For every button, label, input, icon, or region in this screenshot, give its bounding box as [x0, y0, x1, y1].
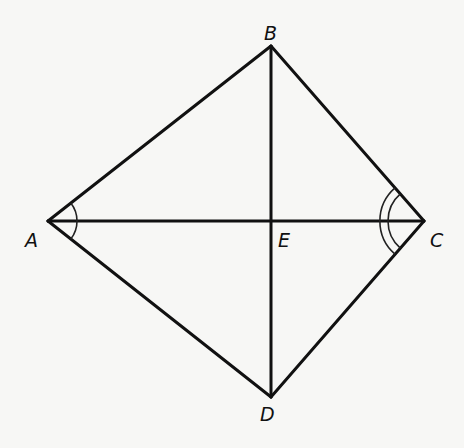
kite-diagram: B A E C D: [0, 0, 464, 448]
segment-ab: [48, 46, 271, 221]
label-e: E: [278, 229, 290, 251]
segment-cd: [271, 221, 424, 397]
angle-arc-a-upper: [71, 203, 77, 221]
label-c: C: [430, 229, 444, 251]
label-b: B: [264, 22, 277, 44]
segments: [48, 46, 424, 397]
angle-arc-a-lower: [71, 221, 77, 239]
label-d: D: [260, 403, 275, 425]
segment-bc: [271, 46, 424, 221]
segment-da: [48, 221, 271, 397]
label-a: A: [23, 229, 38, 251]
